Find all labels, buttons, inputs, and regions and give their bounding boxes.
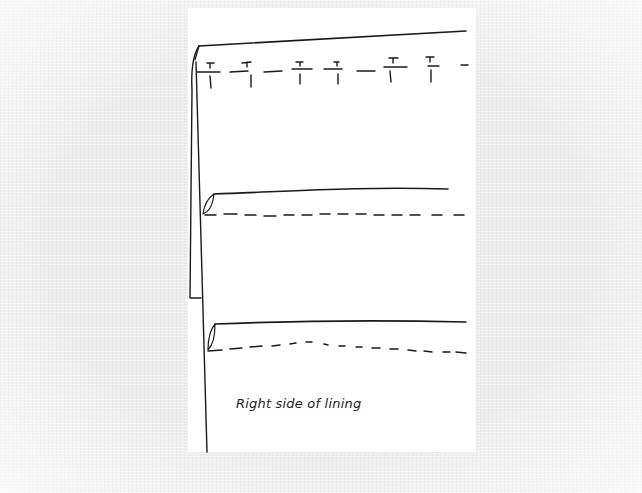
tack-mark <box>242 62 251 87</box>
tack-mark <box>426 57 439 82</box>
lower-tuck-fold <box>215 321 466 324</box>
tack-line <box>230 71 248 72</box>
lower-tuck-stitching <box>208 342 466 353</box>
tack-mark <box>292 62 312 84</box>
tailors-tacks <box>197 57 468 88</box>
figure-caption: Right side of lining <box>236 396 361 411</box>
lower-tuck-fold-curl <box>208 324 215 350</box>
lining-left-edge <box>196 62 207 452</box>
tack-mark <box>324 62 342 84</box>
top-fold-line <box>199 31 466 46</box>
lining-illustration <box>0 0 642 493</box>
tack-mark <box>384 58 407 82</box>
tack-line <box>264 71 282 72</box>
middle-tuck-fold <box>214 188 448 194</box>
middle-tuck-stitching <box>205 214 464 216</box>
middle-tuck-fold-curl <box>203 194 214 214</box>
tack-mark <box>207 63 214 88</box>
